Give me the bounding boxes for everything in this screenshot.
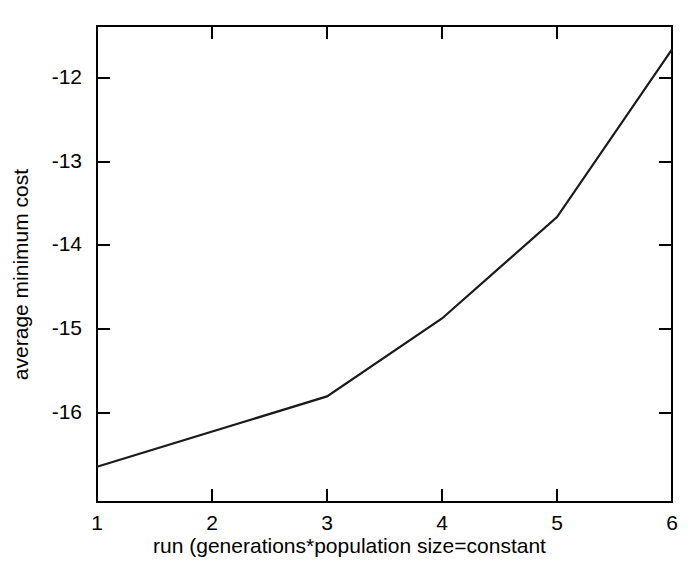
x-axis-label: run (generations*population size=constan…: [0, 535, 699, 556]
line-chart-plot: [0, 0, 699, 574]
x-tick-label-4: 5: [537, 512, 577, 533]
x-tick-label-2: 3: [307, 512, 347, 533]
x-tick-label-5: 6: [652, 512, 692, 533]
x-tick-label-3: 4: [422, 512, 462, 533]
x-tick-label-1: 2: [192, 512, 232, 533]
y-axis-label: average minimum cost: [10, 55, 31, 495]
chart-figure: -12 -13 -14 -15 -16 1 2 3 4 5 6 run (gen…: [0, 0, 699, 574]
plot-frame: [97, 26, 672, 502]
y-axis-label-wrapper: average minimum cost: [0, 0, 40, 574]
x-tick-label-0: 1: [77, 512, 117, 533]
